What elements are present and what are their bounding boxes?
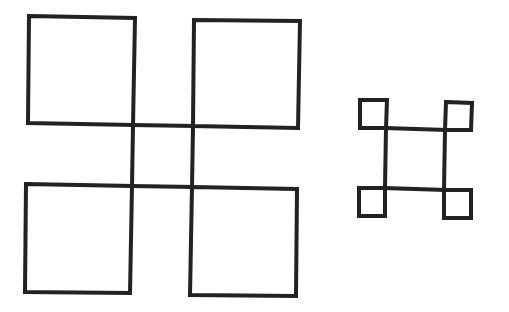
large-square-bottom-right bbox=[190, 187, 297, 296]
small-square-top-left bbox=[360, 100, 387, 128]
large-square-top-left bbox=[28, 16, 135, 125]
small-square-top-right bbox=[445, 102, 472, 130]
large-connector-right bbox=[192, 126, 193, 187]
diagram-canvas bbox=[0, 0, 509, 312]
large-connector-left bbox=[132, 125, 133, 186]
small-square-bottom-right bbox=[444, 190, 471, 218]
small-connector-left bbox=[385, 128, 386, 188]
large-square-top-right bbox=[193, 20, 300, 128]
small-connector-right bbox=[444, 130, 445, 190]
small-connector-bottom bbox=[385, 188, 444, 190]
figures-group bbox=[25, 16, 472, 296]
small-connector-top bbox=[386, 128, 445, 130]
large-square-bottom-left bbox=[25, 184, 132, 293]
small-square-bottom-left bbox=[359, 188, 385, 216]
small-figure bbox=[359, 100, 472, 218]
large-figure bbox=[25, 16, 300, 296]
large-connector-top bbox=[133, 125, 193, 126]
large-connector-bottom bbox=[132, 186, 192, 187]
